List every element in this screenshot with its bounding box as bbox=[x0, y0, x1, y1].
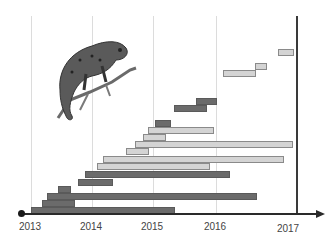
timeline-bar bbox=[148, 127, 214, 134]
chameleon-illustration-icon bbox=[40, 30, 140, 125]
timeline-bar bbox=[78, 179, 113, 186]
time-axis bbox=[21, 213, 318, 215]
axis-arrow-icon bbox=[316, 210, 325, 218]
timeline-bar bbox=[97, 163, 210, 170]
tick-label-2016: 2016 bbox=[204, 221, 226, 232]
timeline-bar bbox=[155, 120, 171, 127]
timeline-bar bbox=[42, 200, 75, 207]
timeline-bar bbox=[223, 70, 256, 77]
gridline-2016 bbox=[216, 16, 217, 214]
current-date-marker bbox=[296, 16, 298, 215]
timeline-bar bbox=[85, 171, 230, 178]
timeline-bar bbox=[278, 49, 294, 56]
timeline-bar bbox=[103, 156, 284, 163]
timeline-bar bbox=[126, 148, 149, 155]
timeline-bar bbox=[143, 134, 166, 141]
axis-origin-dot-icon bbox=[18, 210, 25, 217]
tick-label-2015: 2015 bbox=[141, 221, 163, 232]
timeline-bar bbox=[255, 63, 267, 70]
tick-label-2014: 2014 bbox=[80, 221, 102, 232]
tick-label-2017: 2017 bbox=[277, 223, 299, 234]
gridline-2015 bbox=[153, 16, 154, 214]
timeline-bar bbox=[47, 193, 257, 200]
timeline-bar bbox=[174, 105, 207, 112]
timeline-bar bbox=[196, 98, 217, 105]
tick-label-2013: 2013 bbox=[19, 221, 41, 232]
timeline-bar bbox=[135, 141, 293, 148]
gridline-2013 bbox=[31, 16, 32, 214]
timeline-bar bbox=[58, 186, 71, 193]
